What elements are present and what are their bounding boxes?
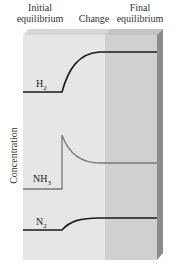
box-top-face-final	[105, 29, 163, 35]
y-axis-label: Concentration	[8, 111, 19, 201]
label-h2: H2	[36, 78, 47, 92]
box-side-face	[157, 29, 163, 260]
label-h2-subscript: 2	[43, 84, 47, 92]
label-n2: N2	[36, 216, 47, 230]
concentration-diagram	[0, 0, 175, 269]
region-final	[105, 35, 157, 260]
label-n2-subscript: 2	[43, 222, 47, 230]
label-nh3-symbol: NH	[33, 173, 47, 184]
label-nh3: NH3	[33, 173, 51, 187]
label-nh3-subscript: 3	[47, 179, 51, 187]
